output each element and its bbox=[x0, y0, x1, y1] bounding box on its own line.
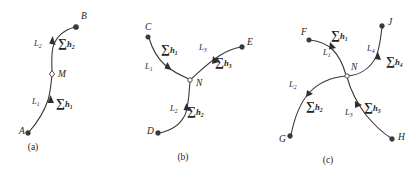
caption-panel-b: (b) bbox=[177, 152, 188, 163]
label-c-J: J bbox=[388, 17, 393, 27]
panel-c: F G H J N L1 L2 L3 L4 ∑h1 ∑h2 ∑h3 ∑h4 (c… bbox=[279, 17, 406, 166]
label-b-L1: L1 bbox=[144, 61, 153, 72]
label-c-N: N bbox=[350, 62, 358, 72]
figure-canvas: A B M L1 L2 ∑h1 ∑h2 (a) C D E N L1 L2 L3… bbox=[0, 0, 416, 177]
label-b-C: C bbox=[145, 22, 152, 32]
label-a-sum-h1: ∑h1 bbox=[56, 96, 73, 110]
arrow-c-L1 bbox=[329, 42, 336, 50]
label-b-sum-h2: ∑h2 bbox=[187, 104, 204, 118]
label-a-A: A bbox=[18, 126, 25, 136]
label-b-sum-h3: ∑h3 bbox=[215, 55, 232, 69]
label-c-sum-h1: ∑h1 bbox=[331, 28, 348, 42]
point-a-B bbox=[73, 24, 78, 29]
label-b-E: E bbox=[246, 37, 253, 47]
point-b-D bbox=[156, 131, 161, 136]
label-c-G: G bbox=[279, 134, 286, 144]
point-c-N bbox=[345, 74, 349, 78]
panel-a: A B M L1 L2 ∑h1 ∑h2 (a) bbox=[18, 11, 87, 153]
label-b-L2: L2 bbox=[169, 103, 178, 114]
label-c-L4: L4 bbox=[366, 43, 375, 54]
point-b-E bbox=[240, 45, 245, 50]
label-a-L1: L1 bbox=[31, 96, 40, 107]
point-b-N bbox=[188, 78, 192, 82]
point-c-F bbox=[307, 38, 312, 43]
label-a-L2: L2 bbox=[33, 38, 42, 49]
arrow-c-L2 bbox=[306, 90, 313, 97]
label-c-sum-h3: ∑h3 bbox=[364, 100, 381, 114]
label-b-D: D bbox=[146, 126, 154, 136]
label-c-sum-h2: ∑h2 bbox=[306, 99, 323, 113]
point-b-C bbox=[146, 35, 151, 40]
label-c-L2: L2 bbox=[288, 79, 297, 90]
label-a-B: B bbox=[81, 11, 87, 21]
label-c-H: H bbox=[397, 132, 406, 142]
panel-b: C D E N L1 L2 L3 ∑h1 ∑h2 ∑h3 (b) bbox=[144, 22, 253, 163]
label-c-sum-h4: ∑h4 bbox=[386, 54, 403, 68]
route-a-M-B bbox=[52, 27, 75, 74]
label-b-sum-h1: ∑h1 bbox=[161, 42, 178, 56]
point-c-J bbox=[380, 24, 385, 29]
point-a-M bbox=[49, 71, 54, 78]
label-c-L3: L3 bbox=[344, 107, 353, 118]
label-a-M: M bbox=[57, 69, 67, 79]
caption-panel-c: (c) bbox=[323, 155, 334, 166]
point-c-H bbox=[390, 137, 395, 142]
label-c-F: F bbox=[300, 27, 307, 37]
label-b-L3: L3 bbox=[198, 42, 207, 53]
leveling-network-figure: A B M L1 L2 ∑h1 ∑h2 (a) C D E N L1 L2 L3… bbox=[0, 0, 416, 177]
arrow-a-L2 bbox=[49, 36, 55, 45]
label-b-N: N bbox=[195, 78, 203, 88]
point-c-G bbox=[288, 134, 293, 139]
label-a-sum-h2: ∑h2 bbox=[58, 36, 75, 50]
arrow-c-L4 bbox=[375, 52, 382, 60]
point-a-A bbox=[26, 131, 31, 136]
caption-panel-a: (a) bbox=[28, 142, 39, 153]
